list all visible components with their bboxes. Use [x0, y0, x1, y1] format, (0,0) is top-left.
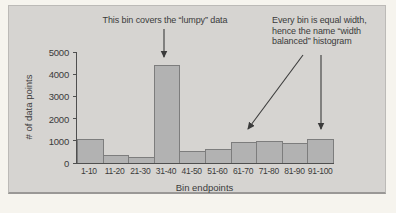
x-tick-label-91-100: 91-100 [307, 166, 333, 176]
annotation-equal-width-line-3: balanced” histogram [272, 36, 390, 47]
y-tick-label-2000: 2000 [49, 113, 69, 124]
bar-91-100 [307, 139, 334, 163]
x-tick-label-51-60: 51-60 [205, 166, 231, 176]
x-tick-label-31-40: 31-40 [153, 166, 179, 176]
bars-container [77, 52, 334, 163]
bar-31-40 [154, 65, 181, 163]
histogram-figure-panel: This bin covers the “lumpy” data Every b… [8, 5, 386, 194]
y-tick-label-1000: 1000 [49, 135, 69, 146]
bar-41-50 [179, 151, 206, 163]
x-tick-label-71-80: 71-80 [256, 166, 282, 176]
x-tick-label-61-70: 61-70 [230, 166, 256, 176]
x-tick-label-11-20: 11-20 [102, 166, 128, 176]
bar-1-10 [77, 139, 104, 163]
annotation-equal-width-line-2: hence the name “width [272, 26, 390, 37]
x-tick-label-41-50: 41-50 [179, 166, 205, 176]
bar-71-80 [256, 141, 283, 163]
x-axis-tick-labels: 1-1011-2021-3031-4041-5051-6061-7071-808… [76, 166, 333, 176]
y-tick-label-5000: 5000 [49, 47, 69, 58]
x-axis-title: Bin endpoints [76, 182, 333, 193]
y-axis-title: # of data points [23, 62, 35, 152]
y-tick-label-4000: 4000 [49, 69, 69, 80]
annotation-equal-width-line-1: Every bin is equal width, [272, 15, 390, 26]
x-tick-label-21-30: 21-30 [127, 166, 153, 176]
annotation-lumpy-data: This bin covers the “lumpy” data [65, 15, 265, 25]
page-background: This bin covers the “lumpy” data Every b… [0, 0, 396, 213]
x-tick-label-81-90: 81-90 [282, 166, 308, 176]
x-tick-label-1-10: 1-10 [76, 166, 102, 176]
plot-area: 010002000300040005000 [76, 52, 334, 164]
bar-11-20 [103, 155, 130, 163]
bar-81-90 [282, 143, 309, 163]
bar-51-60 [205, 149, 232, 163]
bar-61-70 [231, 142, 258, 163]
bar-21-30 [128, 157, 155, 163]
y-tick-label-3000: 3000 [49, 91, 69, 102]
annotation-equal-width: Every bin is equal width, hence the name… [272, 15, 390, 47]
y-tick-label-0: 0 [64, 158, 69, 169]
